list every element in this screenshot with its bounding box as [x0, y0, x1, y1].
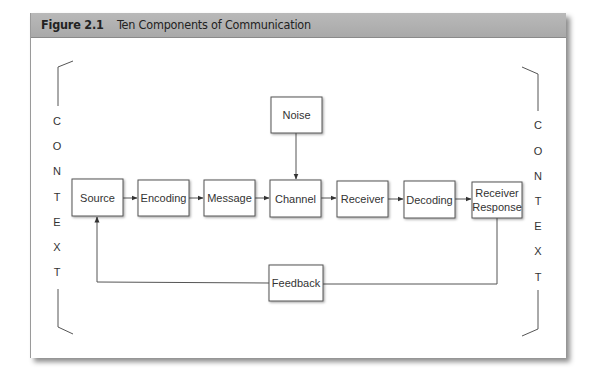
context-letter: T: [54, 266, 61, 278]
node-label-line2: Response: [472, 201, 522, 213]
node-source: Source: [72, 179, 123, 216]
context-letter: T: [535, 195, 542, 207]
node-receiver: Receiver: [337, 181, 388, 217]
node-encoding: Encoding: [138, 180, 189, 216]
node-label: Source: [80, 192, 115, 204]
context-label-left: C O N T E X T: [53, 115, 62, 278]
context-letter: T: [535, 271, 542, 283]
node-label: Noise: [282, 109, 310, 121]
context-letter: O: [534, 145, 543, 157]
context-letter: T: [54, 191, 61, 203]
node-channel: Channel: [270, 180, 321, 217]
node-label: Receiver: [341, 193, 385, 205]
context-label-right: C O N T E X T: [534, 119, 543, 283]
context-letter: E: [53, 216, 60, 228]
node-label: Feedback: [272, 277, 321, 289]
node-label: Decoding: [406, 194, 452, 206]
line-response-feedback: [323, 218, 497, 284]
context-letter: N: [53, 165, 61, 177]
communication-diagram: C O N T E X T C O N T E X T Source Encod…: [0, 0, 595, 381]
node-receiver-response: Receiver Response: [472, 182, 522, 218]
node-label: Channel: [275, 193, 316, 205]
context-letter: C: [53, 115, 61, 127]
context-letter: O: [53, 140, 62, 152]
node-noise: Noise: [271, 97, 322, 133]
context-letter: C: [534, 119, 542, 131]
context-letter: E: [534, 220, 541, 232]
context-letter: N: [534, 170, 542, 182]
arrow-feedback-source: [97, 217, 269, 283]
context-letter: X: [53, 241, 61, 253]
context-letter: X: [534, 245, 542, 257]
node-feedback: Feedback: [269, 265, 323, 301]
node-label: Message: [207, 192, 252, 204]
node-label: Encoding: [141, 192, 187, 204]
node-message: Message: [204, 180, 255, 216]
node-label-line1: Receiver: [475, 187, 519, 199]
node-decoding: Decoding: [404, 181, 455, 218]
